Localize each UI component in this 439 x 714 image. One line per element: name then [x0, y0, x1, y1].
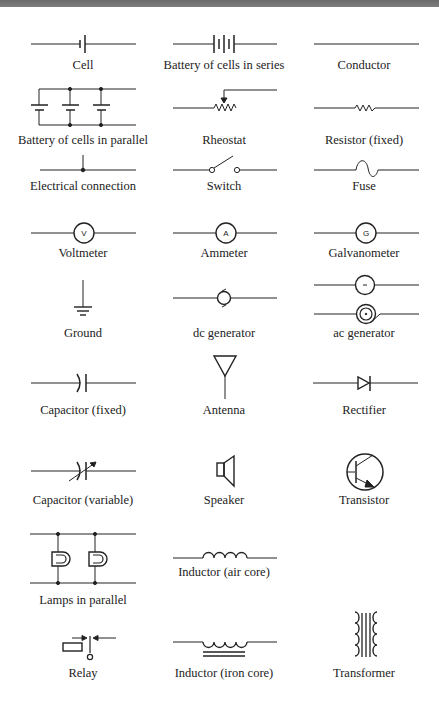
- svg-text:A: A: [223, 229, 229, 238]
- label-fuse: Fuse: [291, 179, 437, 193]
- speaker-icon: [217, 456, 234, 486]
- label-rheostat: Rheostat: [151, 133, 297, 147]
- label-conductor: Conductor: [291, 58, 437, 72]
- label-speaker: Speaker: [151, 493, 297, 507]
- label-connection: Electrical connection: [10, 179, 156, 193]
- label-transformer: Transformer: [291, 666, 437, 680]
- battery-series-icon: [173, 35, 277, 53]
- label-rectifier: Rectifier: [291, 403, 437, 417]
- label-ground: Ground: [10, 326, 156, 340]
- resistor-icon: [314, 105, 419, 111]
- fuse-icon: [314, 161, 419, 177]
- label-resistor: Resistor (fixed): [291, 133, 437, 147]
- label-ac-generator: ac generator: [291, 326, 437, 340]
- rheostat-icon: [173, 90, 277, 111]
- label-capacitor-fixed: Capacitor (fixed): [10, 403, 156, 417]
- galvanometer-icon: G: [314, 223, 419, 243]
- connection-icon: [40, 155, 136, 172]
- ac-generator-icon: [314, 276, 419, 324]
- svg-text:G: G: [363, 229, 369, 238]
- label-switch: Switch: [151, 179, 297, 193]
- label-transistor: Transistor: [291, 493, 437, 507]
- switch-icon: [173, 156, 277, 173]
- capacitor-variable-icon: [31, 462, 136, 481]
- lamps-parallel-icon: [30, 532, 136, 584]
- label-battery-parallel: Battery of cells in parallel: [10, 133, 156, 147]
- label-dc-generator: dc generator: [151, 326, 297, 340]
- label-ammeter: Ammeter: [151, 246, 297, 260]
- svg-text:V: V: [81, 229, 87, 238]
- relay-icon: [63, 636, 116, 660]
- label-battery-series: Battery of cells in series: [151, 58, 297, 72]
- label-inductor-iron: Inductor (iron core): [151, 666, 297, 680]
- ammeter-icon: A: [173, 223, 277, 243]
- label-cell: Cell: [10, 58, 156, 72]
- label-lamps-parallel: Lamps in parallel: [10, 593, 156, 607]
- inductor-iron-icon: [173, 642, 277, 656]
- label-inductor-air: Inductor (air core): [151, 565, 297, 579]
- dc-generator-icon: [173, 289, 277, 307]
- battery-parallel-icon: [31, 87, 136, 126]
- rectifier-icon: [313, 376, 418, 391]
- antenna-icon: [214, 356, 236, 399]
- capacitor-fixed-icon: [31, 374, 136, 392]
- inductor-air-icon: [173, 553, 277, 558]
- transistor-icon: [347, 454, 383, 490]
- label-voltmeter: Voltmeter: [10, 246, 156, 260]
- transformer-icon: [355, 612, 377, 657]
- cell-icon: [31, 35, 136, 53]
- label-galvanometer: Galvanometer: [291, 246, 437, 260]
- label-antenna: Antenna: [151, 403, 297, 417]
- ground-icon: [74, 280, 92, 315]
- label-relay: Relay: [10, 666, 156, 680]
- label-capacitor-variable: Capacitor (variable): [10, 493, 156, 507]
- voltmeter-icon: V: [31, 223, 136, 243]
